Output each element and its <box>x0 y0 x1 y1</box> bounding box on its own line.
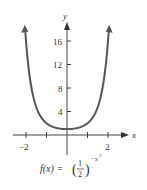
y-ticks <box>67 41 71 112</box>
svg-text:f(x) =: f(x) = <box>40 163 63 175</box>
svg-text:2: 2 <box>99 153 102 158</box>
svg-text:(: ( <box>72 162 77 178</box>
y-tick-label-4: 4 <box>58 107 63 117</box>
y-tick-label-8: 8 <box>58 84 63 94</box>
y-tick-label-12: 12 <box>53 60 62 70</box>
function-formula: f(x) = ( 1 2 ) −x 2 <box>40 153 102 179</box>
svg-text:−x: −x <box>90 155 99 163</box>
x-tick-label-2: 2 <box>105 142 110 152</box>
curve-arrow-left-icon <box>21 25 28 33</box>
x-axis-arrow-icon <box>121 132 129 138</box>
curve-arrow-right-icon <box>106 25 113 33</box>
x-axis-label: x <box>131 130 136 140</box>
y-axis-label: y <box>62 11 67 21</box>
y-tick-label-16: 16 <box>53 37 63 47</box>
svg-text:1: 1 <box>78 159 82 168</box>
svg-text:): ) <box>85 162 90 178</box>
function-graph: x y −2 2 16 12 8 4 f(x) = ( 1 2 ) −x 2 <box>0 0 147 190</box>
x-tick-label-neg2: −2 <box>19 142 29 152</box>
svg-text:2: 2 <box>78 170 82 179</box>
y-axis-arrow-icon <box>64 22 70 30</box>
